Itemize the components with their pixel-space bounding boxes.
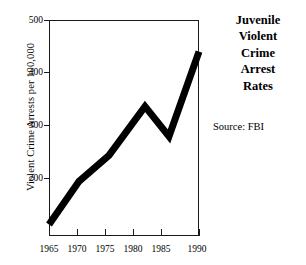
x-tick-mark-1985	[161, 229, 162, 236]
y-tick-label-300: 300	[13, 120, 43, 130]
x-tick-mark-1975	[105, 229, 106, 236]
x-tick-mark-1970	[77, 229, 78, 236]
chart-title-line-5: Rates	[213, 78, 303, 94]
y-tick-label-500: 500	[13, 15, 43, 25]
y-tick-label-200: 200	[13, 173, 43, 183]
x-tick-label-1985: 1985	[141, 244, 181, 254]
chart-title-line-1: Juvenile	[213, 12, 303, 28]
data-series-line	[49, 52, 199, 225]
y-axis-label: Violent Crime Arrests per 100,000	[25, 17, 37, 217]
chart-figure: Violent Crime Arrests per 100,000 500 40…	[0, 0, 306, 265]
chart-title-line-3: Crime	[213, 45, 303, 61]
x-tick-mark-1965	[49, 229, 50, 236]
source-note: Source: FBI	[213, 121, 303, 133]
chart-title: Juvenile Violent Crime Arrest Rates	[213, 12, 303, 94]
plot-line-svg	[49, 20, 199, 236]
chart-title-line-2: Violent	[213, 28, 303, 44]
x-tick-mark-1980	[133, 229, 134, 236]
chart-title-line-4: Arrest	[213, 61, 303, 77]
x-tick-label-1990: 1990	[177, 244, 217, 254]
y-tick-label-400: 400	[13, 67, 43, 77]
x-tick-mark-1990	[199, 229, 200, 236]
